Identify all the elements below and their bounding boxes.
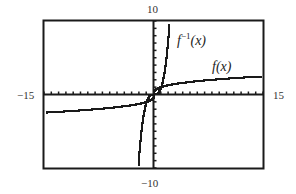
inverse-function-label: f−1(x) xyxy=(177,32,206,48)
plot-area xyxy=(0,0,296,194)
xmax-label: 15 xyxy=(273,90,284,101)
function-label: f(x) xyxy=(212,60,231,74)
xmin-label: −15 xyxy=(17,90,34,101)
inverse-label-arg: (x) xyxy=(190,33,206,48)
ymin-label: −10 xyxy=(141,178,158,189)
ymax-label: 10 xyxy=(147,4,158,15)
